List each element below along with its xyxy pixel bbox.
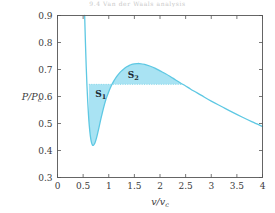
x-tick-label: 4 (260, 181, 266, 191)
y-tick-label: 0.5 (38, 119, 53, 129)
x-axis-ticks (58, 16, 263, 178)
x-axis-tick-labels: 00.511.522.533.54 (55, 181, 266, 191)
x-tick-label: 2 (157, 181, 163, 191)
x-tick-label: 0 (55, 181, 61, 191)
figure-container: 9.4 Van der Waals analysis 00.511.522.53… (0, 0, 275, 213)
y-tick-label: 0.7 (38, 65, 53, 75)
van-der-waals-isotherm-plot: 00.511.522.533.54 0.30.40.50.60.70.80.9 … (0, 0, 275, 213)
x-tick-label: 2.5 (178, 181, 193, 191)
x-tick-label: 3.5 (230, 181, 245, 191)
y-tick-label: 0.3 (38, 173, 53, 183)
running-head: 9.4 Van der Waals analysis (0, 0, 275, 7)
y-axis-ticks (58, 16, 263, 178)
y-tick-label: 0.8 (38, 38, 53, 48)
x-tick-label: 1.5 (127, 181, 142, 191)
x-axis-label-text: v/vc (151, 196, 169, 209)
area-s2-shaded-region (112, 64, 182, 85)
y-tick-label: 0.4 (38, 146, 53, 156)
plot-frame (58, 16, 263, 178)
x-axis-label: v/vc (151, 196, 169, 209)
axis-frame-group: 00.511.522.533.54 0.30.40.50.60.70.80.9 (38, 11, 265, 191)
x-tick-label: 3 (208, 181, 214, 191)
y-tick-label: 0.9 (38, 11, 53, 21)
x-tick-label: 0.5 (76, 181, 91, 191)
x-tick-label: 1 (106, 181, 112, 191)
